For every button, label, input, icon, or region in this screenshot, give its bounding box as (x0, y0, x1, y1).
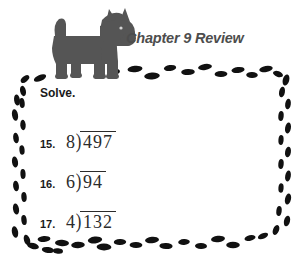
divisor: 8 (66, 133, 75, 152)
worksheet-page: Chapter 9 Review Solve. 15. 8)497 16. 6)… (0, 0, 300, 264)
problem-row: 16. 6)94 (40, 152, 240, 192)
problem-number: 16. (40, 178, 66, 192)
problem-number: 15. (40, 138, 66, 152)
long-division-expression: 4)132 (66, 211, 116, 232)
long-division-expression: 6)94 (66, 171, 106, 192)
dividend: 132 (80, 211, 116, 232)
division-bracket-icon: ) (76, 171, 82, 192)
divisor: 6 (66, 173, 75, 192)
division-bracket-icon: ) (76, 211, 82, 232)
problem-number: 17. (40, 218, 66, 232)
dividend: 94 (80, 171, 106, 192)
problem-row: 17. 4)132 (40, 192, 240, 232)
problem-row: 15. 8)497 (40, 112, 240, 152)
scottish-terrier-icon (42, 6, 138, 84)
problem-list: 15. 8)497 16. 6)94 17. 4)132 (40, 112, 240, 232)
dividend: 497 (80, 131, 116, 152)
directions-text: Solve. (40, 86, 75, 100)
page-title: Chapter 9 Review (126, 30, 244, 46)
division-bracket-icon: ) (76, 131, 82, 152)
long-division-expression: 8)497 (66, 131, 116, 152)
divisor: 4 (66, 213, 75, 232)
